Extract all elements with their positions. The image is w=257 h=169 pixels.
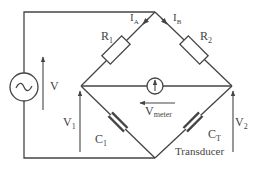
label-r2: R2 [200, 29, 212, 45]
label-v2: V2 [235, 115, 248, 131]
wire-bottom [24, 101, 155, 158]
label-ia: IA [130, 11, 139, 26]
meter-icon [147, 78, 163, 94]
label-ib: IB [173, 11, 182, 26]
label-r1: R1 [101, 29, 113, 45]
bridge-circuit-diagram: R1 R2 IA IB V V1 V2 C1 CT Vmeter Transdu… [0, 0, 257, 169]
label-transducer: Transducer [175, 145, 224, 157]
current-arrow-a [143, 19, 148, 24]
label-v1: V1 [63, 115, 76, 131]
current-arrow-b [162, 19, 167, 24]
label-v: V [50, 79, 59, 93]
label-ct: CT [208, 127, 221, 143]
label-vmeter: Vmeter [145, 104, 172, 119]
ac-source-icon [10, 73, 38, 101]
label-c1: C1 [95, 132, 107, 148]
